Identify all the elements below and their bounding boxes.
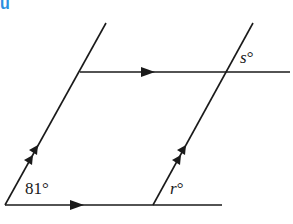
geometry-figure: u 81° r° s° bbox=[0, 0, 293, 224]
left-transversal bbox=[5, 23, 106, 205]
corner-tag: u bbox=[0, 0, 10, 12]
middle-line-arrow-icon bbox=[141, 67, 155, 77]
diagram-canvas: 81° r° s° bbox=[0, 0, 293, 224]
angle-label-r: r° bbox=[170, 179, 183, 198]
left-transversal-double-arrow-icon bbox=[24, 145, 38, 165]
angle-label-s: s° bbox=[240, 48, 253, 67]
right-transversal-double-arrow-icon bbox=[172, 145, 186, 165]
right-transversal bbox=[153, 23, 253, 205]
angle-label-81: 81° bbox=[25, 179, 49, 198]
bottom-line-arrow-icon bbox=[70, 200, 84, 210]
